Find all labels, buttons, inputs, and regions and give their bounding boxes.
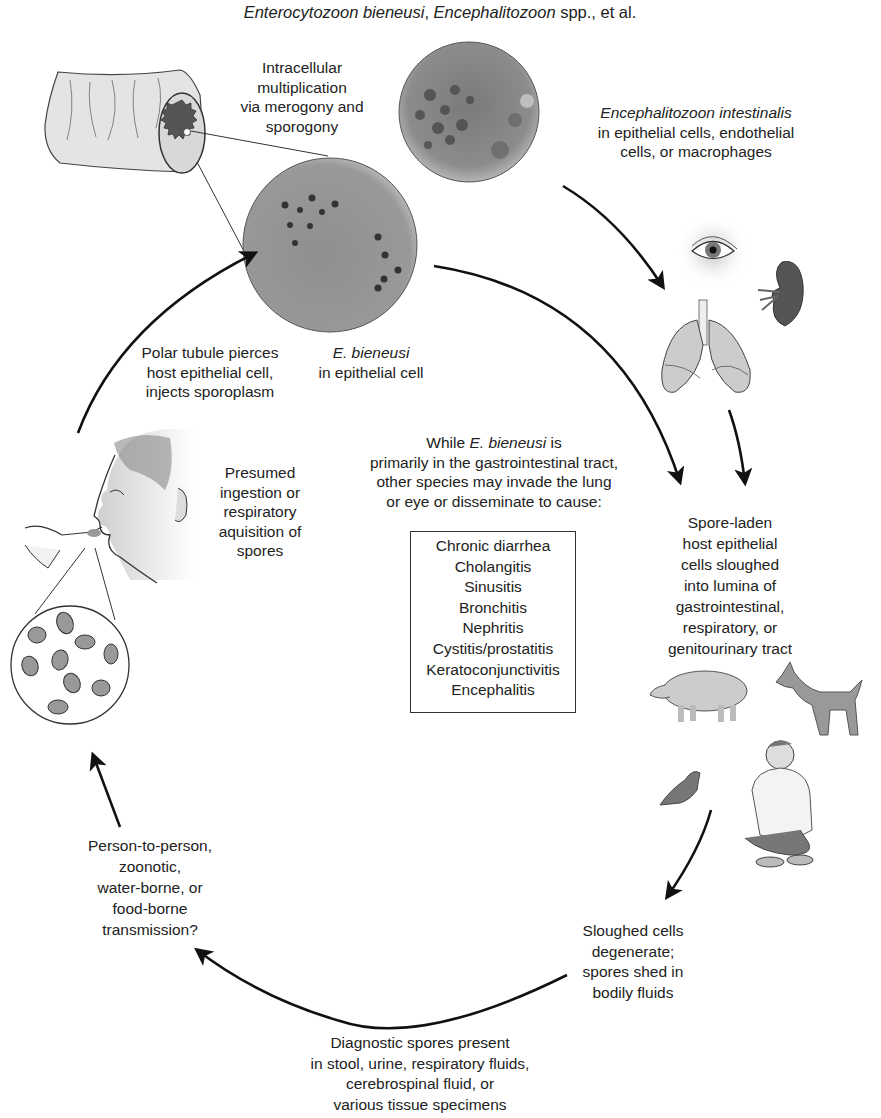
label-center-note: While E. bieneusi is primarily in the ga…	[337, 433, 651, 511]
arrow-to-spores	[93, 755, 120, 827]
arrow-bottom-arc	[197, 950, 567, 1028]
arrow-to-sloughed	[667, 810, 711, 897]
disease-item: Sinusitis	[411, 577, 575, 598]
disease-item: Chronic diarrhea	[411, 536, 575, 557]
spores-magnified	[11, 548, 129, 724]
e-intestinalis-micrograph	[399, 42, 539, 182]
lungs-illustration	[662, 300, 750, 392]
eye-illustration	[677, 215, 749, 287]
e-bieneusi-micrograph	[243, 158, 417, 332]
disease-item: Keratoconjunctivitis	[411, 660, 575, 681]
diseases-box: Chronic diarrhea Cholangitis Sinusitis B…	[410, 531, 576, 713]
disease-item: Bronchitis	[411, 598, 575, 619]
label-e-intestinalis: Encephalitozoon intestinalis in epitheli…	[565, 103, 827, 162]
disease-item: Nephritis	[411, 618, 575, 639]
label-diagnostic: Diagnostic spores present in stool, urin…	[270, 1033, 570, 1115]
arrow-intestinalis-to-organs	[563, 186, 663, 287]
label-sloughed-cells: Sloughed cells degenerate; spores shed i…	[563, 921, 703, 1003]
label-e-bieneusi-cell: E. bieneusi in epithelial cell	[306, 343, 436, 382]
label-transmission: Person-to-person, zoonotic, water-borne,…	[60, 835, 240, 940]
label-polar-tubule: Polar tubule pierces host epithelial cel…	[125, 343, 295, 402]
label-ingestion: Presumed ingestion or respiratory aquisi…	[205, 463, 315, 561]
disease-item: Cystitis/prostatitis	[411, 639, 575, 660]
disease-item: Cholangitis	[411, 557, 575, 578]
dog-illustration	[776, 662, 862, 735]
pigeon-illustration	[660, 772, 700, 805]
squatting-man-illustration	[745, 740, 813, 867]
head-eating-illustration	[25, 429, 195, 583]
arrow-organs-to-spore-laden	[729, 410, 745, 483]
label-intracellular-multiplication: Intracellular multiplication via merogon…	[218, 58, 386, 136]
kidney-illustration	[758, 261, 803, 326]
diagram-title: Enterocytozoon bieneusi, Encephalitozoon…	[180, 3, 700, 23]
title-species-1: Enterocytozoon bieneusi	[244, 3, 425, 21]
label-spore-laden: Spore-laden host epithelial cells slough…	[645, 512, 815, 659]
title-species-2: Encephalitozoon	[434, 3, 556, 21]
disease-item: Encephalitis	[411, 680, 575, 701]
pig-illustration	[650, 671, 747, 722]
